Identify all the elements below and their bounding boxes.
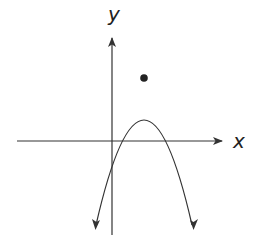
graph-canvas [0,0,255,243]
vertex-point [140,74,148,82]
curve-left-arrow-icon [92,219,100,230]
parabola-diagram: y x [0,0,255,243]
y-axis-label: y [108,4,120,24]
parabola-curve [96,120,192,225]
x-axis-label: x [233,131,245,151]
